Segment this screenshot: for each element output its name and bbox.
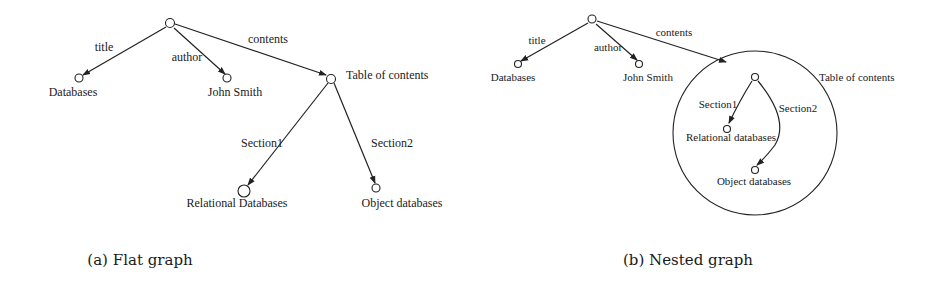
label-object: Object databases	[717, 175, 791, 187]
edge-label-author: author	[594, 41, 622, 53]
label-john-smith: John Smith	[208, 85, 262, 99]
edge-label-contents: contents	[656, 26, 693, 38]
label-toc: Table of contents	[819, 71, 895, 83]
edge-label-section2: Section2	[371, 136, 413, 150]
node-object	[372, 184, 380, 192]
label-databases: Databases	[49, 85, 98, 99]
edge-label-title: title	[528, 34, 545, 46]
node-toc-inner-root	[752, 74, 759, 81]
caption-a: (a) Flat graph	[87, 251, 193, 269]
label-databases: Databases	[491, 71, 536, 83]
label-john-smith: John Smith	[623, 71, 673, 83]
label-relational: Relational databases	[686, 131, 776, 143]
edge-label-section2: Section2	[779, 102, 818, 114]
label-relational: Relational Databases	[187, 196, 288, 210]
node-object	[752, 167, 759, 174]
edge-label-title: title	[95, 40, 114, 54]
edge-section2	[757, 81, 780, 165]
edge-label-section1: Section1	[241, 136, 283, 150]
edge-label-author: author	[172, 50, 203, 64]
panel-b-nested-graph: Databases John Smith Table of contents R…	[491, 15, 895, 269]
node-john-smith	[636, 61, 643, 68]
node-root	[166, 19, 175, 28]
panel-a-flat-graph: Databases John Smith Table of contents R…	[49, 19, 443, 270]
edge-section2	[334, 83, 375, 183]
label-object: Object databases	[362, 196, 443, 210]
edge-label-contents: contents	[248, 32, 288, 46]
node-databases	[515, 61, 522, 68]
node-databases	[75, 74, 83, 82]
node-john-smith	[223, 74, 231, 82]
label-toc: Table of contents	[346, 68, 429, 82]
caption-b: (b) Nested graph	[623, 251, 753, 269]
node-root	[588, 15, 596, 23]
node-toc	[327, 75, 336, 84]
figure-canvas: Databases John Smith Table of contents R…	[0, 0, 941, 299]
edge-label-section1: Section1	[699, 98, 738, 110]
